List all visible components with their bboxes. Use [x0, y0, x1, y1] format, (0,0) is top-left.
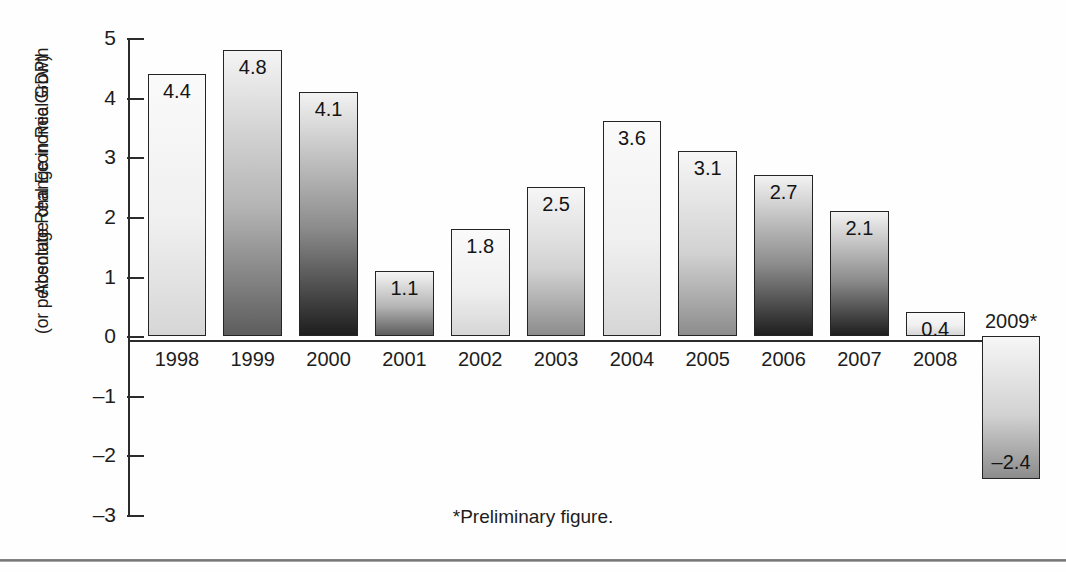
bar-value-label: –2.4 — [983, 451, 1040, 474]
x-tick-label-2003: 2003 — [527, 348, 586, 371]
y-tick-label: –2 — [93, 443, 116, 467]
bar-value-label: 1.1 — [376, 277, 433, 300]
x-tick-label-2007: 2007 — [830, 348, 889, 371]
y-tick-label: 1 — [104, 265, 116, 289]
x-tick-label-2005: 2005 — [678, 348, 737, 371]
x-tick-label-2000: 2000 — [299, 348, 358, 371]
y-axis-title: Absolute Real Economic Growth (or percen… — [6, 0, 78, 530]
bar-2000: 4.1 — [299, 92, 358, 336]
bar-2009: –2.4 — [982, 336, 1041, 479]
bar-1999: 4.8 — [223, 50, 282, 336]
bar-2002: 1.8 — [451, 229, 510, 336]
bar-value-label: 3.1 — [679, 157, 736, 180]
x-tick-label-2004: 2004 — [603, 348, 662, 371]
x-tick-label-1998: 1998 — [148, 348, 207, 371]
footnote: *Preliminary figure. — [0, 506, 1066, 528]
bar-2005: 3.1 — [678, 151, 737, 336]
bar-value-label: 2.1 — [831, 217, 888, 240]
bottom-divider — [0, 559, 1066, 562]
bar-2003: 2.5 — [527, 187, 586, 336]
bar-2007: 2.1 — [830, 211, 889, 336]
chart-figure: Absolute Real Economic Growth (or percen… — [0, 0, 1066, 572]
bar-2006: 2.7 — [754, 175, 813, 336]
bar-value-label: 4.1 — [300, 98, 357, 121]
bar-value-label: 3.6 — [604, 127, 661, 150]
bar-value-label: 2.5 — [528, 193, 585, 216]
y-tick-label: 5 — [104, 26, 116, 50]
y-tick-label: –1 — [93, 384, 116, 408]
plot-area: 543210–1–2–3 4.44.84.11.11.82.53.63.12.7… — [128, 38, 1040, 515]
bar-value-label: 4.8 — [224, 56, 281, 79]
x-tick-label-2001: 2001 — [375, 348, 434, 371]
bar-value-label: 2.7 — [755, 181, 812, 204]
y-axis-title-line2: (or percentage change in Real GDP) — [31, 0, 54, 405]
x-tick-label-2009: 2009* — [982, 310, 1041, 333]
bar-2001: 1.1 — [375, 271, 434, 337]
x-tick-label-2006: 2006 — [754, 348, 813, 371]
y-tick-label: 3 — [104, 145, 116, 169]
x-tick-label-2002: 2002 — [451, 348, 510, 371]
bar-value-label: 4.4 — [149, 80, 206, 103]
bar-2008: 0.4 — [906, 312, 965, 336]
bar-1998: 4.4 — [148, 74, 207, 336]
bar-series: 4.44.84.11.11.82.53.63.12.72.10.4–2.4 — [130, 38, 1040, 515]
y-tick-label: 0 — [104, 324, 116, 348]
y-tick-label: 2 — [104, 205, 116, 229]
bar-value-label: 1.8 — [452, 235, 509, 258]
x-tick-label-2008: 2008 — [906, 348, 965, 371]
bar-value-label: 0.4 — [907, 318, 964, 341]
x-tick-label-1999: 1999 — [223, 348, 282, 371]
bar-2004: 3.6 — [603, 121, 662, 336]
y-tick-label: 4 — [104, 86, 116, 110]
